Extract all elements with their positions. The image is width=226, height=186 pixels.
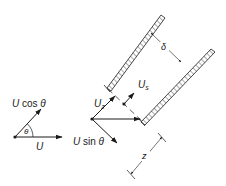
lower-wall: [141, 49, 215, 125]
theta-label: θ: [24, 127, 29, 136]
u-sin-theta-label: U sin θ: [73, 136, 105, 147]
z-label: z: [141, 151, 147, 161]
left-vector-diagram: θ U cos θ U: [12, 98, 62, 152]
middle-vector-diagram: Uz U sin θ: [73, 96, 140, 147]
u-s-vector-arrow: [124, 93, 134, 104]
u-z-label: Uz: [94, 98, 105, 110]
inclined-channel: Us δ z: [104, 15, 215, 179]
upper-wall: [107, 15, 165, 91]
flow-diagram: θ U cos θ U Uz U sin θ: [0, 0, 226, 186]
u-s-label: Us: [138, 79, 149, 91]
cross-section-dashed-line: [108, 89, 143, 122]
z-extension-line: [127, 170, 135, 179]
u-cos-theta-label: U cos θ: [12, 98, 46, 109]
u-label: U: [36, 141, 44, 152]
